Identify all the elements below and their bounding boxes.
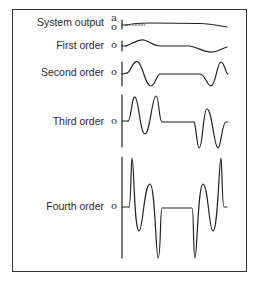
second-order-curve [122, 62, 228, 86]
first-order-curve [122, 40, 227, 52]
system-output-curve [122, 20, 227, 29]
third-order-curve [122, 95, 228, 148]
fourth-order-curve [122, 157, 227, 258]
derivative-curves [0, 0, 254, 286]
